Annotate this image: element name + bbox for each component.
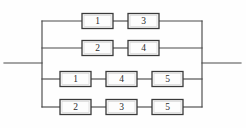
block-label: 5 [165, 74, 170, 84]
block-label: 1 [73, 74, 78, 84]
diagram-canvas: 1324145235 [0, 0, 246, 128]
block-label: 5 [165, 102, 170, 112]
block-label: 4 [141, 43, 146, 53]
block-label: 4 [119, 74, 124, 84]
block-1-2[interactable]: 3 [128, 14, 159, 29]
block-label: 1 [95, 16, 100, 26]
block-2-2[interactable]: 4 [128, 41, 159, 56]
block-4-2[interactable]: 3 [106, 100, 137, 115]
block-4-3[interactable]: 5 [152, 100, 183, 115]
block-label: 2 [73, 102, 78, 112]
reliability-block-diagram: 1324145235 [0, 0, 246, 128]
block-3-3[interactable]: 5 [152, 72, 183, 87]
block-label: 3 [119, 102, 124, 112]
block-1-1[interactable]: 1 [82, 14, 113, 29]
block-2-1[interactable]: 2 [82, 41, 113, 56]
block-4-1[interactable]: 2 [60, 100, 91, 115]
block-label: 2 [95, 43, 100, 53]
wires-layer [4, 21, 241, 107]
blocks-layer: 1324145235 [60, 14, 183, 115]
block-3-1[interactable]: 1 [60, 72, 91, 87]
block-3-2[interactable]: 4 [106, 72, 137, 87]
block-label: 3 [141, 16, 146, 26]
